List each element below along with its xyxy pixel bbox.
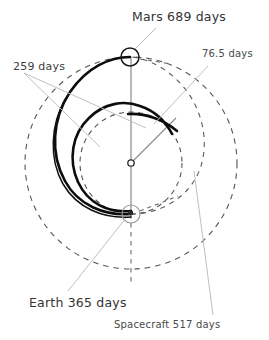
label-mars: Mars 689 days (132, 9, 226, 24)
leader-line-259-a (24, 73, 146, 128)
earth-departure-dash (140, 196, 178, 211)
leader-line-mars (135, 28, 156, 49)
trajectory-group (53, 57, 177, 217)
radial-lines-group (131, 57, 176, 285)
label-spacecraft: Spacecraft 517 days (114, 319, 220, 330)
spacecraft-transfer-spiral (55, 57, 131, 214)
label-transfer-259-days: 259 days (13, 60, 65, 73)
label-transfer-76-5-days: 76.5 days (202, 48, 253, 59)
spacecraft-orbit-dashed (131, 57, 204, 214)
leader-line-spacecraft (194, 171, 213, 315)
earth-marker-dot (128, 211, 133, 215)
label-earth: Earth 365 days (29, 295, 127, 310)
orbital-diagram-figure: Mars 689 days 259 days 76.5 days Earth 3… (0, 0, 269, 340)
sun-marker (128, 160, 134, 166)
leader-line-259-b (24, 73, 100, 147)
